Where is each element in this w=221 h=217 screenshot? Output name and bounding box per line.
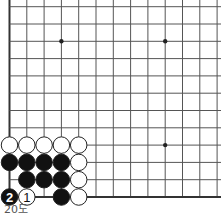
white-stone-icon (19, 137, 36, 154)
black-stone-icon (36, 171, 53, 188)
white-stone-icon (70, 154, 87, 171)
black-stone-icon (53, 154, 70, 171)
go-board: 21 (0, 0, 221, 217)
white-stone-icon (70, 189, 87, 206)
star-point-icon (59, 39, 63, 43)
star-point-icon (163, 39, 167, 43)
white-stone-icon (70, 171, 87, 188)
black-stone-icon (19, 154, 36, 171)
white-stone-icon (1, 137, 18, 154)
diagram-caption: 20도 (4, 203, 28, 216)
black-stone-icon (1, 154, 18, 171)
black-stone-icon (53, 189, 70, 206)
white-stone-icon (70, 137, 87, 154)
star-point-icon (163, 143, 167, 147)
black-stone-icon (53, 171, 70, 188)
black-stone-icon (36, 154, 53, 171)
black-stone-icon (19, 171, 36, 188)
white-stone-icon (53, 137, 70, 154)
white-stone-icon (36, 137, 53, 154)
